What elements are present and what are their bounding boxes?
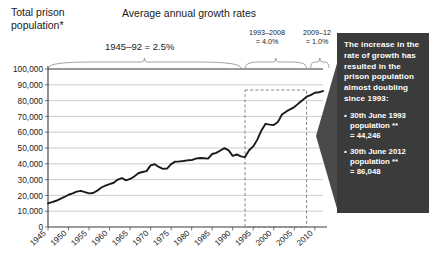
x-axis-tick-label: 1985 (192, 229, 212, 248)
chart-figure: Total prison population* Average annual … (0, 0, 435, 258)
axis-lines (48, 66, 327, 227)
growth-rate-brackets (48, 58, 329, 68)
callout-box: The increase in the rate of growth has r… (337, 33, 429, 213)
prison-population-line (48, 91, 323, 203)
x-axis-tick-label: 1975 (151, 229, 171, 248)
callout-body-text: The increase in the rate of growth has r… (344, 40, 424, 105)
x-axis-tick-label: 1950 (49, 229, 69, 248)
y-axis-tick-label: 50,000 (18, 143, 44, 153)
x-axis-tick-label: 1980 (172, 229, 192, 248)
x-axis-tick-label: 1955 (69, 229, 89, 248)
highlight-region-1993-2008 (245, 90, 307, 227)
callout-bullet-text: 30th June 2012 population ** = 86,048 (350, 147, 406, 177)
y-axis-tick-label: 60,000 (18, 127, 44, 137)
y-axis-tick-label: 80,000 (18, 96, 44, 106)
x-axis-tick-label: 2005 (275, 229, 295, 248)
y-axis-tick-label: 100,000 (13, 64, 43, 74)
y-axis-tick-label: 70,000 (18, 112, 44, 122)
y-axis-tick-label: 30,000 (18, 175, 44, 185)
y-axis-tick-label: 10,000 (18, 206, 44, 216)
callout-bullet-text: 30th June 1993 population ** = 44,246 (350, 111, 406, 141)
callout-bullet-list: •30th June 1993 population ** = 44,246•3… (344, 111, 424, 178)
x-axis-tick-label: 1970 (131, 229, 151, 248)
callout-bullet-item: •30th June 1993 population ** = 44,246 (344, 111, 424, 141)
x-axis-tick-label: 1945 (28, 229, 48, 248)
y-axis-tick-label: 20,000 (18, 191, 44, 201)
callout-bullet-item: •30th June 2012 population ** = 86,048 (344, 147, 424, 177)
x-axis-tick-label: 1960 (90, 229, 110, 248)
x-axis-tick-label: 1995 (234, 229, 254, 248)
y-axis-tick-labels: 010,00020,00030,00040,00050,00060,00070,… (13, 64, 43, 232)
x-axis-tick-label: 1990 (213, 229, 233, 248)
y-axis-tick-label: 40,000 (18, 159, 44, 169)
data-series-line (48, 91, 323, 203)
x-axis-tick-label: 1965 (110, 229, 130, 248)
callout-arrow-icon (316, 60, 338, 212)
x-axis-tick-label: 2000 (254, 229, 274, 248)
x-axis-tick-labels: 1945195019551960196519701975198019851990… (28, 229, 315, 248)
y-axis-tick-label: 90,000 (18, 80, 44, 90)
x-axis-tick-label: 2010 (295, 229, 315, 248)
